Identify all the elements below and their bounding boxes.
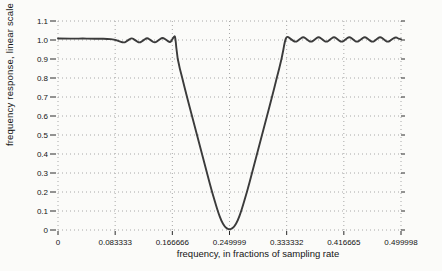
y-tick-label: 0.6 xyxy=(37,112,49,121)
y-tick-label: 0.2 xyxy=(37,188,49,197)
x-tick-label: 0.083333 xyxy=(98,238,132,247)
tick-marks xyxy=(50,21,405,235)
tick-labels: 00.10.20.30.40.50.60.70.80.91.01.100.083… xyxy=(37,17,418,247)
y-tick-label: 0.8 xyxy=(37,74,49,83)
y-tick-label: 0.1 xyxy=(37,207,49,216)
x-tick-label: 0.416665 xyxy=(327,238,361,247)
frequency-response-chart: frequency response, linear scale 00.10.2… xyxy=(0,0,442,271)
x-axis-label: frequency, in fractions of sampling rate xyxy=(98,248,418,259)
y-tick-label: 0.4 xyxy=(37,150,49,159)
plot-area: 00.10.20.30.40.50.60.70.80.91.01.100.083… xyxy=(0,0,442,271)
y-tick-label: 0.5 xyxy=(37,131,49,140)
y-tick-label: 1.1 xyxy=(37,17,49,26)
y-tick-label: 0 xyxy=(44,226,49,235)
y-tick-label: 0.9 xyxy=(37,55,49,64)
x-tick-label: 0.333332 xyxy=(270,238,304,247)
x-tick-label: 0.499998 xyxy=(384,238,418,247)
y-tick-label: 0.7 xyxy=(37,93,49,102)
y-tick-label: 1.0 xyxy=(37,36,49,45)
x-tick-label: 0.249999 xyxy=(213,238,247,247)
x-tick-label: 0.166666 xyxy=(156,238,190,247)
x-tick-label: 0 xyxy=(56,238,61,247)
gridlines xyxy=(58,21,401,230)
y-tick-label: 0.3 xyxy=(37,169,49,178)
